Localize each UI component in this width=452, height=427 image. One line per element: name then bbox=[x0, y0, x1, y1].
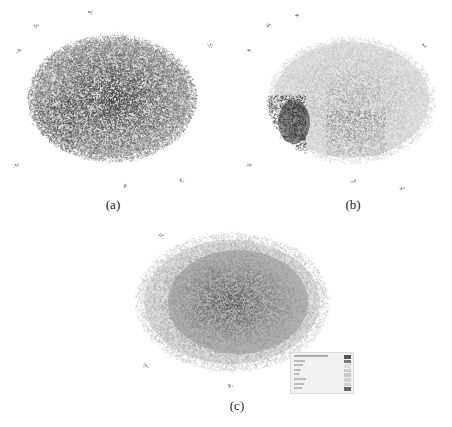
legend-label bbox=[294, 383, 304, 385]
legend-swatch bbox=[344, 369, 351, 373]
legend-swatch bbox=[344, 373, 351, 377]
legend-row bbox=[291, 373, 353, 377]
legend-label bbox=[294, 369, 301, 371]
network-plot-b bbox=[226, 0, 452, 190]
legend-row bbox=[291, 364, 353, 368]
panel-a: (a) bbox=[0, 0, 226, 220]
legend-row bbox=[291, 387, 353, 391]
legend-label bbox=[294, 360, 305, 362]
legend-row bbox=[291, 383, 353, 387]
legend-label bbox=[294, 378, 306, 380]
legend-label bbox=[294, 364, 303, 366]
legend-swatch bbox=[344, 383, 351, 387]
legend-row bbox=[291, 360, 353, 364]
legend-swatch bbox=[344, 360, 351, 364]
legend-label bbox=[294, 387, 302, 389]
legend-swatch bbox=[344, 387, 351, 391]
legend-swatch bbox=[344, 355, 351, 359]
caption-c: (c) bbox=[217, 398, 257, 414]
legend-row bbox=[291, 378, 353, 382]
caption-b: (b) bbox=[333, 197, 373, 213]
legend-row bbox=[291, 355, 353, 359]
panel-c: (c) bbox=[120, 220, 360, 427]
legend-label bbox=[294, 373, 299, 375]
panel-b: (b) bbox=[226, 0, 452, 220]
legend-swatch bbox=[344, 364, 351, 368]
caption-a: (a) bbox=[93, 197, 133, 213]
legend-row bbox=[291, 369, 353, 373]
network-plot-a bbox=[0, 0, 226, 190]
legend-box bbox=[290, 352, 354, 394]
legend-swatch bbox=[344, 378, 351, 382]
